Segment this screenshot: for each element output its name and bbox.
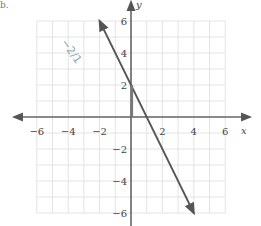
y-tick-label: −2 bbox=[112, 144, 127, 155]
handwritten-note: −2/1 bbox=[58, 36, 84, 66]
x-tick-label: 6 bbox=[222, 126, 228, 137]
y-axis-label: y bbox=[135, 0, 142, 10]
x-tick-label: −2 bbox=[92, 126, 107, 137]
y-tick-label: −6 bbox=[112, 208, 127, 219]
x-tick-label: 2 bbox=[159, 126, 165, 137]
x-axis-label: x bbox=[241, 125, 247, 136]
y-tick-label: 6 bbox=[121, 16, 127, 27]
x-tick-label: 4 bbox=[191, 126, 197, 137]
coordinate-plane: xy −6−4−2246642−2−4−6 −2/1 bbox=[0, 0, 261, 226]
x-tick-label: −6 bbox=[29, 126, 44, 137]
y-tick-label: −4 bbox=[112, 176, 127, 187]
x-tick-label: −4 bbox=[61, 126, 76, 137]
y-tick-label: 4 bbox=[121, 48, 127, 59]
y-tick-label: 2 bbox=[121, 80, 127, 91]
